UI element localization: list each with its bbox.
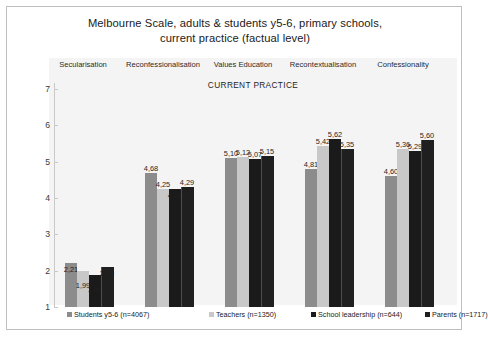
bar-3-4 bbox=[261, 156, 274, 307]
legend-label-2: Teachers (n=1350) bbox=[216, 310, 276, 319]
legend-label-1: Students y5-6 (n=4067) bbox=[74, 310, 149, 319]
bar-label-5-4: 5,60 bbox=[416, 131, 438, 140]
bar-4-1 bbox=[305, 169, 317, 307]
chart-legend: Students y5-6 (n=4067)Teachers (n=1350)S… bbox=[49, 310, 457, 324]
legend-item-4[interactable]: Parents (n=1717) bbox=[425, 310, 488, 319]
bar-label-2-1: 4,68 bbox=[140, 164, 162, 173]
chart-title-line-1: Melbourne Scale, adults & students y5-6,… bbox=[7, 16, 463, 31]
bar-label-4-4: 5,35 bbox=[336, 140, 358, 149]
bar-2-1 bbox=[145, 173, 157, 307]
y-axis-tick-3: 3 bbox=[37, 229, 50, 239]
bar-label-4-3: 5,62 bbox=[324, 130, 346, 139]
bar-3-3 bbox=[249, 159, 261, 307]
bar-4-4 bbox=[341, 149, 354, 307]
bar-label-2-4: 4,29 bbox=[176, 178, 198, 187]
bar-5-3 bbox=[409, 151, 421, 307]
bar-4-3 bbox=[329, 139, 341, 307]
bar-label-2-2: 4,25 bbox=[152, 180, 174, 189]
legend-item-1[interactable]: Students y5-6 (n=4067) bbox=[67, 310, 149, 319]
bar-5-4 bbox=[421, 140, 434, 307]
legend-label-4: Parents (n=1717) bbox=[432, 310, 488, 319]
bar-3-1 bbox=[225, 158, 237, 307]
legend-swatch-icon-2 bbox=[209, 312, 214, 317]
bar-2-3 bbox=[169, 189, 181, 307]
legend-item-3[interactable]: School leadership (n=644) bbox=[311, 310, 402, 319]
y-axis-tick-7: 7 bbox=[37, 84, 50, 94]
legend-item-2[interactable]: Teachers (n=1350) bbox=[209, 310, 276, 319]
bar-2-2 bbox=[157, 189, 169, 307]
chart-card: Melbourne Scale, adults & students y5-6,… bbox=[6, 6, 462, 330]
legend-swatch-icon-1 bbox=[67, 312, 72, 317]
legend-label-3: School leadership (n=644) bbox=[318, 310, 402, 319]
bar-5-2 bbox=[397, 149, 409, 307]
chart-title: Melbourne Scale, adults & students y5-6,… bbox=[7, 16, 463, 46]
legend-swatch-icon-4 bbox=[425, 312, 430, 317]
bar-2-4 bbox=[181, 187, 194, 307]
y-axis-tickmark-1 bbox=[54, 307, 58, 308]
bars-layer: 2,211,991,882,104,684,254,244,295,105,12… bbox=[55, 64, 457, 307]
y-axis-tick-6: 6 bbox=[37, 120, 50, 130]
y-axis-tick-5: 5 bbox=[37, 157, 50, 167]
legend-swatch-icon-3 bbox=[311, 312, 316, 317]
bar-3-2 bbox=[237, 157, 249, 307]
bar-4-2 bbox=[317, 146, 329, 307]
bar-label-3-4: 5,15 bbox=[256, 147, 278, 156]
bar-label-1-4: 2,10 bbox=[96, 269, 118, 278]
chart-title-line-2: current practice (factual level) bbox=[7, 31, 463, 46]
y-axis-tick-2: 2 bbox=[37, 266, 50, 276]
y-axis-tick-4: 4 bbox=[37, 193, 50, 203]
bar-5-1 bbox=[385, 176, 397, 307]
